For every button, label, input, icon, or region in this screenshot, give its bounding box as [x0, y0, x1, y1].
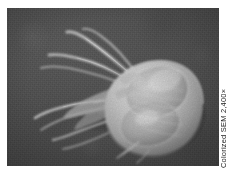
- credit-line: Colorized SEM 2,400×: [229, 48, 243, 168]
- credit-text: Colorized SEM 2,400×: [217, 89, 231, 168]
- micrograph-plate: [7, 8, 219, 166]
- figure-root: Colorized SEM 2,400×: [0, 0, 244, 174]
- micrograph-vignette: [7, 8, 219, 166]
